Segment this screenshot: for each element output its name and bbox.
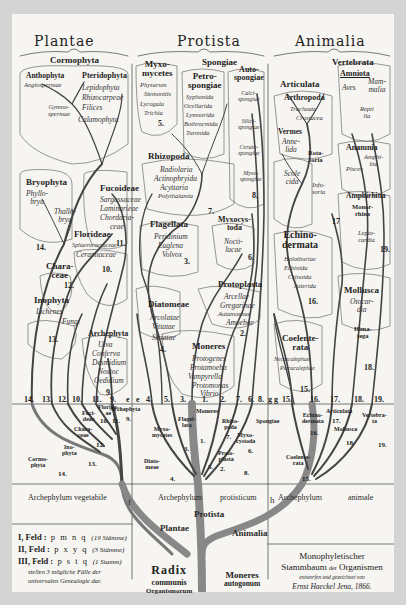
desmidium-label: Desmidium [92, 359, 126, 367]
trunk-plantae: Plantae [160, 524, 189, 533]
baseline-num: 11. [92, 396, 102, 404]
kingdom-plantae: Plantae [34, 34, 95, 48]
sargassaceae-label: Sargassaceae [100, 196, 141, 204]
lower-spongiae: Spongiae [256, 418, 279, 424]
lower-archephyta: Archephyta [110, 406, 140, 412]
legend-row-3: III, Feld : p s t q (1 Stamm) [18, 556, 122, 566]
lymnorida-label: Lymnorida [186, 112, 214, 119]
stemonitis-label: Stemonitis [144, 91, 171, 98]
physarum-label: Physarum [140, 82, 166, 89]
lower-moneres: Moneres [196, 408, 218, 414]
lower-num: 16. [310, 430, 319, 437]
baseline-num: 19. [374, 396, 384, 404]
lower-protoplasta: Proto-plasta [218, 450, 234, 462]
protoplasta-label: Protoplasta [218, 280, 262, 289]
turonida-label: Turonida [186, 130, 210, 137]
lower-characeae: Chara-ceae [74, 426, 92, 438]
monorrhina-label: Monor-rhina [352, 204, 373, 217]
petracalephae-label: Petracalephae [280, 365, 315, 371]
lower-echinodermata: Echino-dermata [302, 412, 324, 424]
otocardia-label: Otocar-dia [350, 298, 374, 313]
title-block: Monophyletischer Stammbaum der Organisme… [272, 552, 392, 590]
lower-cormophyta: Cormo-phyta [28, 456, 48, 468]
rotatoria-label: Rota-toria [308, 150, 324, 163]
baseline-num: 7. [236, 396, 242, 404]
pteridophyta-label: Pteridophyta [82, 72, 127, 80]
lower-num: 6. [248, 448, 253, 455]
radix-communis: Radix communis Organismorum [146, 564, 192, 595]
amphirhina-label: Amphirhina [346, 192, 386, 200]
flagellata-label: Flagellata [150, 220, 188, 229]
bothrocmida-label: Bothrocmida [184, 121, 218, 128]
archephylum-protisticum-a: Archephylum [158, 494, 202, 502]
angiospermae-label: Angiospermae [24, 82, 62, 89]
baseline-marker: e [136, 396, 140, 404]
lower-num: 5. [208, 464, 213, 471]
lower-num: 12. [96, 442, 105, 449]
lycogala-label: Lycogala [140, 101, 164, 108]
legend-row-2: II, Feld : p x y q (3 Stämme) [18, 544, 124, 554]
spongiae-label: Spongiae [202, 58, 237, 67]
baseline-marker: e [126, 396, 130, 404]
baseline-num: 18. [354, 396, 364, 404]
baseline-marker: g [268, 396, 272, 404]
baseline-num: 1. [202, 396, 208, 404]
lichenes-label: Lichenes [36, 308, 63, 316]
calcispongiae-label: Calci-spongiae [238, 90, 260, 102]
legend-caption-1: stellen 3 mögliche Fälle der [28, 568, 101, 575]
amoebae-label: Amoebae [226, 319, 254, 327]
kingdom-animalia: Animalia [295, 34, 366, 48]
moneres-label: Moneres [192, 342, 225, 351]
baseline-num: 4. [146, 396, 152, 404]
conferva-label: Conferva [92, 350, 120, 358]
baseline-num: 12. [58, 396, 68, 404]
articulata-label: Articulata [280, 80, 320, 89]
cormophyta-label: Cormophyta [50, 56, 99, 65]
annelida-label: Anne-lida [282, 138, 300, 153]
baseline-num: 5. [164, 396, 170, 404]
baseline-num: 6. [248, 396, 254, 404]
mammalia-label: Mam-malia [368, 78, 386, 93]
lower-num: 10. [100, 418, 109, 425]
nectacalephae-label: Nectacalephae [274, 356, 310, 362]
lower-diatomeae: Diato-meae [144, 458, 160, 470]
tracheata-label: Tracheata [290, 106, 316, 113]
bryophyta-label: Bryophyta [26, 178, 67, 187]
lower-num: 11. [112, 418, 120, 425]
chordariaceae-label: Chordaria- [100, 214, 134, 222]
baseline-num: 17. [330, 396, 340, 404]
num-11: 11. [116, 240, 126, 248]
myxocystoda-label: Myxocys- toda [218, 216, 251, 232]
holothuriae-label: Holothuriae [284, 256, 316, 263]
ceratospongiae-label: Cerato-spongiae [238, 144, 260, 156]
volvox-label: Volvox [162, 251, 182, 259]
laminarieae-label: Laminarieae [100, 205, 138, 213]
lower-inophyta: Ino-phyta [62, 444, 77, 456]
num-14: 14. [36, 244, 46, 252]
title-line-2: Stammbaum der Organismen [272, 563, 392, 572]
lepidophyta-label: Lepidophyta [82, 84, 120, 92]
legend-caption-2: universalen Genealogie dar. [28, 577, 101, 584]
baseline-num: 15. [282, 396, 292, 404]
baseline-num: 10. [72, 396, 82, 404]
protamoeba-label: Protamoeba [190, 364, 227, 372]
lower-myxocystoda: Myxo-cystoda [236, 432, 255, 444]
inophyta-label: Inophyta [34, 296, 69, 305]
baseline-num: 8. [258, 396, 264, 404]
fucoideae-label: Fucoideae [100, 184, 139, 193]
trunk-protista: Protista [194, 510, 224, 519]
lower-articulata: Articulata [326, 408, 352, 414]
lower-num: 8. [244, 470, 249, 477]
thallobrya-label: Thallo- brya [54, 208, 76, 223]
baseline-num: 2. [220, 396, 226, 404]
arthropoda-label: Arthropoda [284, 94, 325, 102]
gregarinae-label: Gregarinae [220, 302, 255, 310]
autamoebae-label: Autamoebae [218, 311, 251, 318]
himatega-label: Hima-tega [354, 326, 372, 339]
lower-myxomycetes: Myxo-mycetes [152, 426, 172, 438]
num-2: 2. [240, 330, 246, 338]
archephylum-vegetabile: Archephylum vegetabile [28, 494, 107, 502]
myxospongiae-label: Myxo-spongiae [240, 170, 262, 182]
arcellae-label: Arcellae [224, 293, 249, 301]
ceramiaceae-label: Ceramiaceae [76, 251, 116, 259]
